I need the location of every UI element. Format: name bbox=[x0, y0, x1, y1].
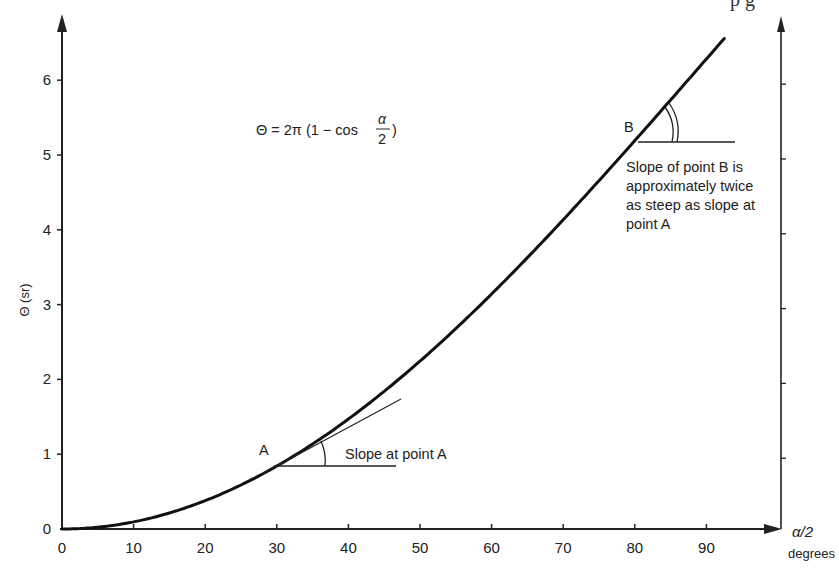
x-axis-units: degrees bbox=[788, 546, 835, 561]
y-axis-arrow-icon bbox=[57, 14, 67, 32]
point-b-label: B bbox=[624, 119, 634, 135]
point-a-tangent bbox=[262, 399, 401, 474]
equation-numerator: α bbox=[378, 111, 387, 127]
y-axis-title: Θ (sr) bbox=[17, 283, 32, 316]
x-tick-label: 20 bbox=[197, 539, 214, 556]
equation-rhs: ) bbox=[392, 122, 397, 138]
steradian-chart: p g 0123456 0102030405060708090 Θ (sr) α… bbox=[0, 0, 839, 575]
angle-arc-a-icon bbox=[321, 441, 325, 466]
point-a-label: A bbox=[259, 442, 269, 458]
point-a-annotation: A Slope at point A bbox=[259, 399, 447, 474]
x-axis-arrow-icon bbox=[764, 524, 782, 534]
x-tick-label: 0 bbox=[58, 539, 66, 556]
y-tick-label: 0 bbox=[43, 520, 51, 537]
x-tick-label: 40 bbox=[340, 539, 357, 556]
slope-b-line-4: point A bbox=[626, 216, 671, 232]
y-tick-label: 6 bbox=[43, 71, 51, 88]
x-tick-label: 90 bbox=[698, 539, 715, 556]
y-axis: 0123456 bbox=[43, 14, 67, 537]
x-axis-title: α/2 bbox=[792, 523, 814, 540]
page-header-fragment: p g bbox=[730, 0, 755, 11]
x-tick-label: 30 bbox=[268, 539, 285, 556]
x-tick-label: 10 bbox=[125, 539, 142, 556]
x-tick-label: 80 bbox=[626, 539, 643, 556]
equation: Θ = 2π (1 − cos α 2 ) bbox=[256, 111, 397, 147]
x-tick-label: 70 bbox=[555, 539, 572, 556]
slope-b-line-1: Slope of point B is bbox=[626, 159, 743, 175]
equation-lhs: Θ = 2π (1 − cos bbox=[256, 122, 358, 138]
y-tick-label: 1 bbox=[43, 445, 51, 462]
right-axis-arrow-icon bbox=[777, 16, 785, 32]
y-tick-label: 4 bbox=[43, 221, 51, 238]
y-tick-label: 5 bbox=[43, 146, 51, 163]
slope-b-line-3: as steep as slope at bbox=[626, 197, 755, 213]
slope-a-text: Slope at point A bbox=[345, 446, 447, 462]
angle-arc-b-inner-icon bbox=[665, 107, 673, 142]
slope-b-line-2: approximately twice bbox=[626, 178, 753, 194]
equation-denominator: 2 bbox=[378, 131, 386, 147]
point-b-annotation: B Slope of point B is approximately twic… bbox=[624, 103, 755, 232]
x-tick-label: 60 bbox=[483, 539, 500, 556]
y-tick-label: 2 bbox=[43, 370, 51, 387]
x-axis: 0102030405060708090 bbox=[58, 524, 782, 556]
right-axis bbox=[777, 16, 786, 529]
y-tick-label: 3 bbox=[43, 296, 51, 313]
x-tick-label: 50 bbox=[412, 539, 429, 556]
